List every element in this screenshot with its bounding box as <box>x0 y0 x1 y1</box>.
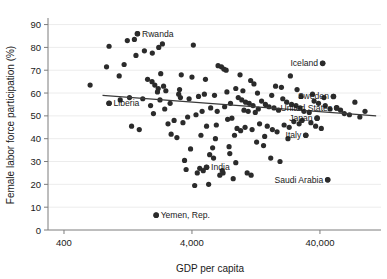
data-point <box>189 74 194 79</box>
point-label: United States <box>281 103 333 113</box>
data-point <box>233 160 238 165</box>
data-point <box>238 128 243 133</box>
annotated-data-point <box>106 101 112 107</box>
data-point <box>88 82 93 87</box>
data-point <box>215 109 220 114</box>
gridlines-group <box>48 25 381 208</box>
y-tick-label: 50 <box>30 110 41 121</box>
data-point <box>206 182 211 187</box>
data-point <box>187 96 192 101</box>
data-point <box>277 159 282 164</box>
data-point <box>255 90 260 95</box>
y-tick-label: 0 <box>36 225 41 236</box>
data-point <box>150 50 155 55</box>
data-point <box>273 84 278 89</box>
scatter-plot-figure: 0102030405060708090 4004,00040,000 Rwand… <box>0 0 387 279</box>
data-point <box>106 44 111 49</box>
data-point <box>269 93 274 98</box>
annotated-data-point <box>325 177 331 183</box>
data-point <box>257 121 262 126</box>
y-tick-label: 60 <box>30 88 41 99</box>
data-point <box>362 109 367 114</box>
data-point <box>169 132 174 137</box>
data-point <box>184 167 189 172</box>
data-point <box>203 77 208 82</box>
y-tick-label: 40 <box>30 133 41 144</box>
data-point <box>213 136 218 141</box>
data-point <box>137 127 142 132</box>
data-point <box>125 38 130 43</box>
y-axis-title: Female labor force participation (%) <box>5 46 16 204</box>
annotated-data-point <box>334 105 340 111</box>
data-point <box>211 155 216 160</box>
annotated-data-point <box>320 61 326 67</box>
data-point <box>246 109 251 114</box>
data-point <box>287 125 292 130</box>
data-point <box>196 94 201 99</box>
annotated-data-point <box>314 115 320 121</box>
data-point <box>155 89 160 94</box>
y-tick-label: 90 <box>30 19 41 30</box>
point-label: Iceland <box>290 58 318 68</box>
data-point <box>268 155 273 160</box>
y-axis-ticks-group: 0102030405060708090 <box>30 19 48 235</box>
data-point <box>193 112 198 117</box>
data-point <box>280 96 285 101</box>
x-axis-ticks-group: 4004,00040,000 <box>56 230 334 248</box>
data-point <box>279 85 284 90</box>
data-point <box>182 158 187 163</box>
data-point <box>212 93 217 98</box>
data-point <box>265 124 270 129</box>
x-tick-label: 4,000 <box>180 237 204 248</box>
data-point <box>224 68 229 73</box>
data-point <box>261 143 266 148</box>
data-point <box>191 43 196 48</box>
annotated-data-point <box>303 132 309 138</box>
y-tick-label: 80 <box>30 42 41 53</box>
data-point <box>237 72 242 77</box>
point-label: Yemen, Rep. <box>161 210 210 220</box>
data-point <box>156 45 161 50</box>
data-point <box>158 71 163 76</box>
y-tick-label: 70 <box>30 65 41 76</box>
y-tick-label: 20 <box>30 179 41 190</box>
data-point <box>179 72 184 77</box>
data-point <box>192 183 197 188</box>
x-tick-label: 400 <box>56 237 72 248</box>
point-label: Liberia <box>114 98 140 108</box>
data-point <box>117 73 122 78</box>
annotated-data-point <box>153 212 159 218</box>
data-point <box>171 118 176 123</box>
data-point <box>249 127 254 132</box>
data-point <box>227 151 232 156</box>
data-point <box>133 53 138 58</box>
data-point <box>210 145 215 150</box>
data-point <box>251 81 256 86</box>
data-point <box>168 101 173 106</box>
data-point <box>262 134 267 139</box>
data-point <box>174 135 179 140</box>
data-point <box>232 133 237 138</box>
data-point <box>151 111 156 116</box>
data-point <box>288 73 293 78</box>
y-tick-label: 10 <box>30 202 41 213</box>
data-point <box>214 122 219 127</box>
data-point <box>254 140 259 145</box>
data-point <box>148 103 153 108</box>
data-point <box>207 152 212 157</box>
point-label: Saudi Arabia <box>274 175 323 185</box>
data-point <box>198 133 203 138</box>
x-tick-label: 40,000 <box>305 237 334 248</box>
point-label: Rwanda <box>142 29 174 39</box>
data-point <box>132 37 137 42</box>
data-point <box>165 121 170 126</box>
data-point <box>208 105 213 110</box>
data-point <box>129 124 134 129</box>
data-point <box>224 89 229 94</box>
point-annotations-group: RwandaIcelandSwedenUnited StatesJapanIta… <box>106 29 339 220</box>
data-point <box>178 95 183 100</box>
annotated-data-point <box>331 94 337 100</box>
data-point <box>240 88 245 93</box>
data-point <box>313 124 318 129</box>
data-point <box>233 86 238 91</box>
